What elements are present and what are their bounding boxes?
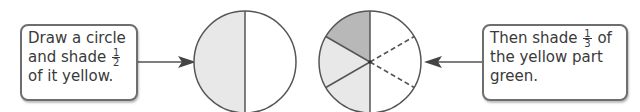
step2-line3: green.	[490, 67, 620, 86]
step1-line1: Draw a circle	[28, 29, 130, 48]
step2-line1-text: Then shade	[490, 29, 577, 47]
instruction-box-step-1: Draw a circle and shade 1 2 of it yellow…	[20, 24, 138, 101]
sixths-shaded-circle	[319, 11, 421, 112]
fraction-denominator: 3	[584, 39, 590, 48]
step1-line3: of it yellow.	[28, 67, 130, 86]
fraction-denominator: 2	[113, 58, 119, 67]
step2-line1: Then shade 1 3 of	[490, 29, 620, 48]
arrow-left-icon	[424, 56, 482, 68]
step2-line2: the yellow part	[490, 48, 620, 67]
fraction-one-half: 1 2	[112, 48, 120, 67]
instruction-box-step-2: Then shade 1 3 of the yellow part green.	[482, 24, 628, 101]
arrow-right-icon	[138, 56, 196, 68]
step1-line2-text: and shade	[28, 48, 106, 66]
step1-line2: and shade 1 2	[28, 48, 130, 67]
fraction-one-third: 1 3	[583, 29, 591, 48]
step2-line1-post: of	[597, 29, 611, 47]
half-shaded-circle	[194, 11, 296, 112]
